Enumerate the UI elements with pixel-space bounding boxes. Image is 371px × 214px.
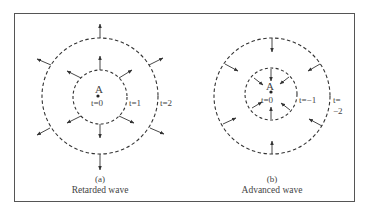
label-t-minus-1: t=−1	[299, 95, 316, 105]
inner-outward-arrows	[67, 56, 134, 138]
point-a-label: A	[266, 80, 274, 92]
wave-diagram: A t=0 t=1 t=2 (a) Retarded wave A	[0, 0, 371, 214]
label-t-minus-2-top: t=	[333, 95, 341, 105]
label-t1: t=1	[129, 98, 141, 108]
panel-b-tag: (b)	[267, 174, 278, 184]
point-a-label: A	[95, 83, 103, 95]
outer-outward-arrows	[37, 24, 164, 170]
label-t-minus-2-bottom: −2	[333, 106, 343, 116]
panel-b-caption: Advanced wave	[242, 185, 303, 195]
panel-b-advanced-wave: A t=0 t=−1 t= −2 (b) Advanced wave	[214, 38, 343, 195]
panel-a-caption: Retarded wave	[72, 185, 129, 195]
inner-inward-arrows	[252, 69, 290, 119]
label-t0: t=0	[261, 95, 274, 105]
label-t0: t=0	[91, 98, 104, 108]
panel-a-tag: (a)	[95, 174, 105, 184]
inner-wavefront-circle	[73, 70, 127, 124]
label-t2: t=2	[160, 98, 172, 108]
panel-a-retarded-wave: A t=0 t=1 t=2 (a) Retarded wave	[37, 24, 172, 195]
